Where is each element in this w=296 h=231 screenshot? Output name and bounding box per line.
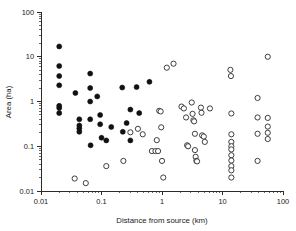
data-point-open bbox=[229, 175, 234, 180]
data-point-open bbox=[229, 111, 234, 116]
data-point-open bbox=[192, 131, 197, 136]
data-point-open bbox=[128, 130, 133, 135]
y-axis-title: Area (ha) bbox=[4, 85, 13, 118]
y-tick-label: 1 bbox=[30, 97, 34, 106]
data-points bbox=[57, 44, 271, 186]
data-point-open bbox=[192, 148, 197, 153]
data-point-filled bbox=[95, 94, 100, 99]
data-point-open bbox=[192, 119, 197, 124]
data-point-filled bbox=[134, 85, 139, 90]
data-point-open bbox=[255, 158, 260, 163]
data-point-filled bbox=[120, 85, 125, 90]
data-point-open bbox=[229, 168, 234, 173]
data-point-open bbox=[183, 115, 188, 120]
data-point-open bbox=[265, 124, 270, 129]
axis-ticks bbox=[37, 12, 283, 195]
data-point-filled bbox=[99, 135, 104, 140]
x-tick-label: 1 bbox=[160, 197, 164, 206]
data-point-open bbox=[189, 100, 194, 105]
data-point-open bbox=[135, 126, 140, 131]
data-point-open bbox=[228, 73, 233, 78]
data-point-open bbox=[159, 125, 164, 130]
data-point-filled bbox=[104, 138, 109, 143]
data-point-open bbox=[255, 131, 260, 136]
data-point-filled bbox=[88, 86, 93, 91]
data-point-open bbox=[164, 65, 169, 70]
data-point-filled bbox=[57, 83, 62, 88]
x-tick-label: 0.1 bbox=[96, 197, 106, 206]
data-point-filled bbox=[57, 105, 62, 110]
data-point-open bbox=[140, 132, 145, 137]
data-point-filled bbox=[109, 124, 114, 129]
data-point-filled bbox=[124, 121, 129, 126]
data-point-open bbox=[229, 147, 234, 152]
data-point-filled bbox=[147, 79, 152, 84]
data-point-open bbox=[186, 144, 191, 149]
data-point-open bbox=[265, 136, 270, 141]
data-point-open bbox=[265, 130, 270, 135]
data-point-open bbox=[158, 109, 163, 114]
data-point-open bbox=[229, 153, 234, 158]
y-tick-label: 0.01 bbox=[20, 187, 34, 196]
data-point-open bbox=[154, 138, 159, 143]
data-point-open bbox=[228, 67, 233, 72]
data-point-open bbox=[121, 158, 126, 163]
data-point-open bbox=[265, 54, 270, 59]
data-point-open bbox=[207, 106, 212, 111]
data-point-open bbox=[104, 164, 109, 169]
data-point-open bbox=[181, 106, 186, 111]
figure-container: 0.010.1110100 0.010.1110100 Distance fro… bbox=[0, 0, 296, 231]
data-point-filled bbox=[128, 107, 133, 112]
data-point-open bbox=[171, 61, 176, 66]
scatter-plot: 0.010.1110100 0.010.1110100 Distance fro… bbox=[0, 0, 296, 231]
data-point-open bbox=[83, 181, 88, 186]
data-point-filled bbox=[77, 129, 82, 134]
y-tick-labels: 0.010.1110100 bbox=[20, 8, 34, 196]
data-point-open bbox=[72, 176, 77, 181]
data-point-filled bbox=[120, 129, 125, 134]
x-tick-labels: 0.010.1110100 bbox=[34, 197, 289, 206]
data-point-open bbox=[229, 132, 234, 137]
data-point-open bbox=[229, 158, 234, 163]
data-point-open bbox=[161, 175, 166, 180]
x-tick-label: 10 bbox=[218, 197, 226, 206]
data-point-filled bbox=[57, 64, 62, 69]
data-point-filled bbox=[57, 111, 62, 116]
data-point-open bbox=[198, 105, 203, 110]
y-tick-label: 100 bbox=[22, 8, 34, 17]
data-point-filled bbox=[98, 112, 103, 117]
data-point-open bbox=[199, 110, 204, 115]
data-point-open bbox=[159, 158, 164, 163]
data-point-filled bbox=[57, 74, 62, 79]
data-point-filled bbox=[98, 122, 103, 127]
data-point-open bbox=[201, 134, 206, 139]
y-tick-label: 10 bbox=[26, 52, 34, 61]
data-point-filled bbox=[88, 143, 93, 148]
data-point-open bbox=[190, 111, 195, 116]
data-point-filled bbox=[137, 111, 142, 116]
x-tick-label: 100 bbox=[277, 197, 289, 206]
data-point-filled bbox=[77, 117, 82, 122]
data-point-open bbox=[155, 148, 160, 153]
data-point-open bbox=[265, 115, 270, 120]
data-point-filled bbox=[128, 138, 133, 143]
data-point-open bbox=[255, 115, 260, 120]
x-axis-title: Distance from source (km) bbox=[116, 216, 208, 225]
plot-axes bbox=[41, 12, 283, 191]
data-point-filled bbox=[57, 44, 62, 49]
data-point-filled bbox=[88, 117, 93, 122]
data-point-open bbox=[194, 159, 199, 164]
y-tick-label: 0.1 bbox=[24, 142, 34, 151]
data-point-filled bbox=[88, 99, 93, 104]
data-point-open bbox=[255, 95, 260, 100]
data-point-filled bbox=[73, 90, 78, 95]
data-point-open bbox=[202, 139, 207, 144]
data-point-filled bbox=[88, 71, 93, 76]
x-tick-label: 0.01 bbox=[34, 197, 48, 206]
